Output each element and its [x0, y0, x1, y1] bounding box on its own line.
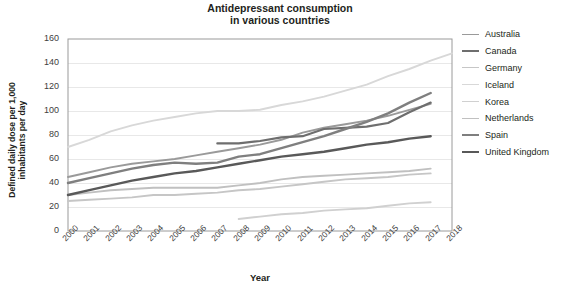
legend-item-label: Korea	[485, 97, 509, 107]
legend-swatch-icon	[462, 101, 479, 102]
legend-item-netherlands[interactable]: Netherlands	[462, 110, 549, 127]
series-line-germany	[68, 173, 431, 201]
y-axis-tick: 140	[31, 57, 59, 67]
series-line-australia	[68, 104, 431, 177]
legend-item-label: Canada	[485, 46, 517, 56]
y-axis-tick: 20	[31, 201, 59, 211]
legend-item-label: Iceland	[485, 80, 514, 90]
x-axis-tick: 2004	[145, 223, 165, 243]
series-line-netherlands	[68, 169, 431, 195]
chart-title: Antidepressant consumption in various co…	[120, 2, 440, 26]
x-axis-tick: 2007	[209, 223, 229, 243]
legend-swatch-icon	[462, 134, 479, 136]
series-line-korea	[239, 202, 431, 219]
x-axis-tick: 2016	[401, 223, 421, 243]
legend-item-label: Netherlands	[485, 113, 534, 123]
x-axis-tick: 2010	[273, 223, 293, 243]
legend-swatch-icon	[462, 50, 479, 52]
legend-item-label: Germany	[485, 63, 522, 73]
x-axis-tick: 2018	[444, 223, 464, 243]
legend-item-canada[interactable]: Canada	[462, 43, 549, 60]
chart-container: Antidepressant consumption in various co…	[0, 0, 573, 292]
y-axis-tick: 120	[31, 81, 59, 91]
x-axis-tick: 2006	[188, 223, 208, 243]
legend-item-iceland[interactable]: Iceland	[462, 76, 549, 93]
x-axis-tick: 2000	[60, 223, 80, 243]
legend-swatch-icon	[462, 34, 479, 35]
y-axis-tick: 60	[31, 153, 59, 163]
y-axis-tick: 100	[31, 105, 59, 115]
x-axis-tick: 2008	[231, 223, 251, 243]
x-axis-tick: 2003	[124, 223, 144, 243]
series-line-spain	[68, 93, 431, 183]
y-axis-title: Defined daily dose per 1,000 inhabitants…	[7, 60, 27, 220]
plot-frame	[68, 39, 452, 231]
series-lines	[68, 53, 452, 219]
y-axis-tick: 40	[31, 177, 59, 187]
chart-legend: AustraliaCanadaGermanyIcelandKoreaNether…	[462, 26, 549, 160]
x-axis-tick: 2009	[252, 223, 272, 243]
legend-item-spain[interactable]: Spain	[462, 127, 549, 144]
legend-item-united-kingdom[interactable]: United Kingdom	[462, 144, 549, 161]
x-axis-tick: 2011	[295, 223, 315, 243]
legend-item-korea[interactable]: Korea	[462, 93, 549, 110]
x-axis-tick: 2002	[103, 223, 123, 243]
x-axis-tick: 2014	[359, 223, 379, 243]
legend-item-germany[interactable]: Germany	[462, 60, 549, 77]
gridlines	[68, 63, 452, 207]
y-axis-tick: 160	[31, 33, 59, 43]
legend-swatch-icon	[462, 151, 479, 153]
legend-item-label: Spain	[485, 130, 508, 140]
legend-swatch-icon	[462, 67, 479, 68]
x-axis-tick: 2017	[423, 223, 443, 243]
x-axis-title: Year	[200, 272, 320, 283]
series-line-canada	[217, 103, 430, 144]
x-axis-tick: 2001	[81, 223, 101, 243]
x-axis-tick: 2005	[167, 223, 187, 243]
y-axis-tick: 0	[31, 225, 59, 235]
y-axis-tick: 80	[31, 129, 59, 139]
series-line-united-kingdom	[68, 136, 431, 195]
legend-item-label: United Kingdom	[485, 147, 549, 157]
legend-item-label: Australia	[485, 29, 520, 39]
x-axis-tick: 2012	[316, 223, 336, 243]
legend-swatch-icon	[462, 118, 479, 119]
legend-swatch-icon	[462, 84, 479, 85]
x-axis-tick: 2013	[337, 223, 357, 243]
legend-item-australia[interactable]: Australia	[462, 26, 549, 43]
x-axis-tick: 2015	[380, 223, 400, 243]
series-line-iceland	[68, 53, 452, 147]
